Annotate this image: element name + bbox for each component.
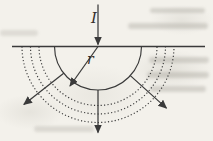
equipotential-shell-solid (55, 47, 142, 91)
scanned-page: I r (0, 0, 213, 141)
radius-label: r (87, 52, 94, 66)
diagram-geometry (12, 5, 205, 133)
current-injection-diagram (0, 0, 213, 141)
current-label: I (91, 11, 97, 26)
